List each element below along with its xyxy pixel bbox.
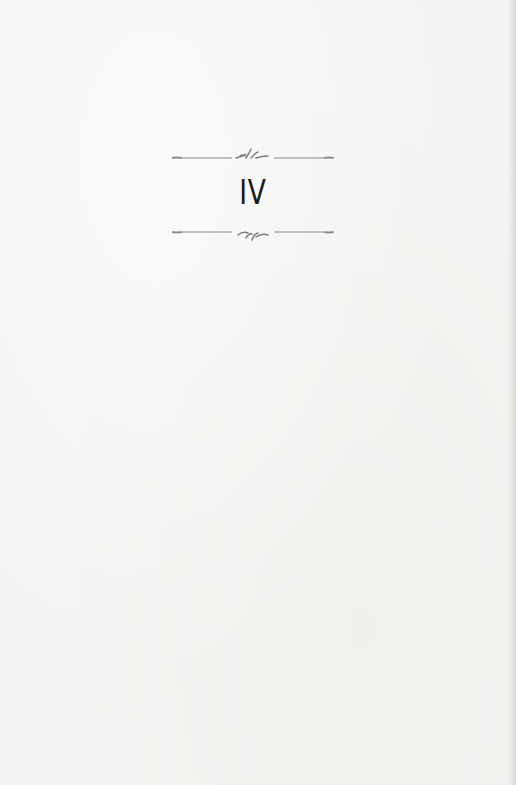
chapter-number: IV <box>188 172 317 212</box>
ornamental-rule-bottom-icon <box>170 228 336 242</box>
page-edge-shadow <box>508 0 516 785</box>
chapter-heading-block: IV <box>170 145 336 245</box>
book-page: IV <box>0 0 516 785</box>
ornamental-rule-top-icon <box>170 148 336 162</box>
